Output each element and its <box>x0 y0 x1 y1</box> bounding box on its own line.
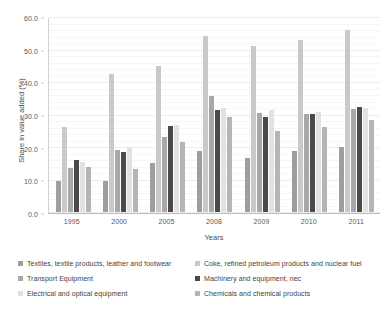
legend-label: Textiles, textile products, leather and … <box>27 260 171 267</box>
y-tick-mark <box>41 50 44 51</box>
bar <box>275 131 280 212</box>
bar <box>316 112 321 212</box>
legend-label: Transport Equipment <box>27 275 93 282</box>
bar <box>322 127 327 212</box>
bar <box>103 181 108 212</box>
legend-entry[interactable]: Textiles, textile products, leather and … <box>18 256 195 271</box>
legend-label: Coke, refined petroleum products and nuc… <box>204 260 362 267</box>
bar <box>56 181 61 212</box>
plot-region <box>48 18 380 214</box>
bar <box>174 125 179 212</box>
legend-entry[interactable]: Transport Equipment <box>18 271 195 286</box>
legend-swatch-icon <box>195 261 200 266</box>
bar <box>115 150 120 212</box>
bar <box>257 113 262 212</box>
bar <box>269 110 274 212</box>
y-tick-label: 20.0 <box>24 145 38 152</box>
x-tick-label: 1995 <box>48 218 95 232</box>
bar <box>180 142 185 212</box>
bar <box>304 114 309 212</box>
bar <box>168 126 173 212</box>
bar <box>369 120 374 212</box>
bar <box>357 107 362 212</box>
y-tick-label: 30.0 <box>24 113 38 120</box>
legend-entry[interactable]: Machinery and equipment, nec <box>195 271 374 286</box>
chart-legend: Textiles, textile products, leather and … <box>18 256 374 302</box>
x-tick-label: 2008 <box>190 218 237 232</box>
bar <box>133 169 138 212</box>
y-tick-label: 50.0 <box>24 47 38 54</box>
legend-swatch-icon <box>195 291 200 296</box>
bar <box>203 36 208 212</box>
legend-entry[interactable]: Chemicals and chemical products <box>195 286 374 301</box>
bar <box>109 74 114 212</box>
bar <box>339 147 344 212</box>
gridline <box>49 212 380 213</box>
bar <box>197 151 202 212</box>
bar-group <box>239 18 286 212</box>
plot-area <box>48 18 380 214</box>
bar <box>251 46 256 212</box>
legend-label: Chemicals and chemical products <box>204 290 310 297</box>
x-tick-label: 2005 <box>143 218 190 232</box>
bar-group <box>97 18 144 212</box>
x-axis-title: Years <box>48 233 380 242</box>
bar <box>221 108 226 212</box>
y-tick-mark <box>41 214 44 215</box>
bar <box>80 162 85 212</box>
y-tick-mark <box>41 148 44 149</box>
bar <box>62 127 67 212</box>
bar <box>162 137 167 212</box>
legend-label: Machinery and equipment, nec <box>204 275 301 282</box>
bar <box>127 147 132 212</box>
bar <box>227 117 232 212</box>
legend-entry[interactable]: Coke, refined petroleum products and nuc… <box>195 256 374 271</box>
bar <box>310 114 315 212</box>
bar <box>298 40 303 212</box>
bar-group <box>191 18 238 212</box>
y-tick-mark <box>41 116 44 117</box>
y-tick-label: 60.0 <box>24 15 38 22</box>
y-tick-mark <box>41 181 44 182</box>
bar <box>68 168 73 212</box>
x-tick-label: 2011 <box>333 218 380 232</box>
x-tick-label: 2010 <box>285 218 332 232</box>
bar <box>215 110 220 212</box>
bar <box>292 151 297 212</box>
bar <box>86 167 91 212</box>
bar-group <box>50 18 97 212</box>
y-axis-title: Share in value added (%) <box>17 66 26 176</box>
legend-swatch-icon <box>18 261 23 266</box>
bar <box>245 158 250 212</box>
y-tick-label: 0.0 <box>28 211 38 218</box>
bar <box>351 109 356 212</box>
bar <box>121 152 126 212</box>
legend-swatch-icon <box>18 291 23 296</box>
bar <box>209 96 214 212</box>
legend-label: Electrical and optical equipment <box>27 290 127 297</box>
bar-group <box>144 18 191 212</box>
bar <box>345 30 350 212</box>
bars-layer <box>50 18 380 212</box>
bar <box>263 117 268 212</box>
legend-swatch-icon <box>18 276 23 281</box>
bar <box>156 66 161 212</box>
bar <box>74 160 79 212</box>
x-axis: 1995200020052008200920102011 <box>48 218 380 232</box>
bar-group <box>286 18 333 212</box>
y-tick-label: 40.0 <box>24 80 38 87</box>
bar <box>363 108 368 212</box>
x-tick-label: 2009 <box>238 218 285 232</box>
y-tick-mark <box>41 18 44 19</box>
y-tick-mark <box>41 83 44 84</box>
bar-chart-figure: 0.010.020.030.040.050.060.0 Share in val… <box>0 0 388 310</box>
bar-group <box>333 18 380 212</box>
legend-swatch-icon <box>195 276 200 281</box>
bar <box>150 163 155 212</box>
x-tick-label: 2000 <box>95 218 142 232</box>
legend-entry[interactable]: Electrical and optical equipment <box>18 286 195 301</box>
y-tick-label: 10.0 <box>24 178 38 185</box>
